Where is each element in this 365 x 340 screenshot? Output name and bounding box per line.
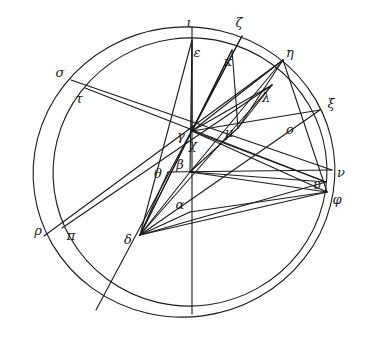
geometric-figure: αβγδεζηθικλμνξoπρστυφχ <box>0 0 365 340</box>
point-label-pi: π <box>67 229 76 242</box>
point-label-delta: δ <box>124 233 132 246</box>
point-label-rho: ρ <box>34 224 42 237</box>
point-label-gamma: γ <box>177 129 185 142</box>
point-label-alpha: α <box>176 198 185 211</box>
point-label-mu: μ <box>225 126 233 139</box>
segment-layer <box>44 27 332 314</box>
point-label-iota: ι <box>186 16 191 29</box>
point-label-xi: ξ <box>327 97 334 110</box>
point-label-beta: β <box>176 158 184 171</box>
point-label-phi: φ <box>332 193 341 206</box>
point-label-zeta: ζ <box>235 16 242 29</box>
kappa-to-mu <box>232 50 238 128</box>
point-label-tau: τ <box>75 92 82 105</box>
point-label-theta: θ <box>154 167 162 180</box>
point-label-lambda: λ <box>262 91 270 104</box>
beta-to-eta <box>190 60 283 172</box>
point-label-kappa: κ <box>224 55 233 68</box>
point-label-upsilon: υ <box>313 178 321 191</box>
point-label-chi: χ <box>189 138 197 151</box>
alpha-to-phi <box>190 192 327 212</box>
eta-to-mu <box>238 60 283 128</box>
delta-to-phi <box>140 192 327 235</box>
point-label-epsilon: ε <box>194 46 201 59</box>
gamma-to-upsilon <box>192 131 326 182</box>
point-label-sigma: σ <box>56 66 65 79</box>
alpha-to-delta <box>140 212 190 235</box>
point-label-omicron: o <box>286 123 294 136</box>
rho-to-eta <box>44 60 283 236</box>
delta-to-upsilon <box>140 182 326 235</box>
point-label-nu: ν <box>337 166 345 179</box>
point-label-eta: η <box>286 46 294 59</box>
